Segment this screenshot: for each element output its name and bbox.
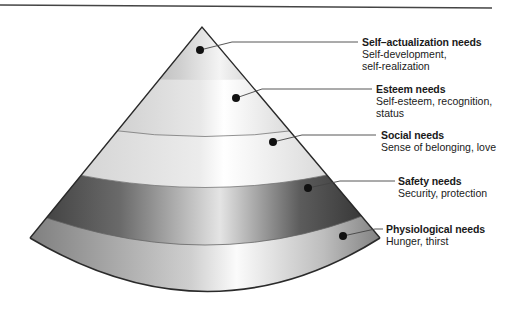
- marker-dot-4: [304, 184, 312, 192]
- level-title: Esteem needs: [376, 83, 492, 95]
- level-desc: Self-esteem, recognition,: [376, 95, 492, 107]
- level-title: Self–actualization needs: [362, 36, 482, 48]
- marker-dot-5: [339, 232, 347, 240]
- band-self-actualization: [0, 0, 400, 80]
- level-title: Safety needs: [398, 175, 487, 187]
- level-desc: status: [376, 107, 492, 119]
- label-physiological: Physiological needs Hunger, thirst: [386, 223, 485, 247]
- label-self-actualization: Self–actualization needs Self-developmen…: [362, 36, 482, 72]
- level-title: Physiological needs: [386, 223, 485, 235]
- marker-dot-3: [269, 138, 277, 146]
- level-desc: Sense of belonging, love: [381, 141, 496, 153]
- level-desc: Hunger, thirst: [386, 235, 485, 247]
- marker-dot-1: [196, 46, 204, 54]
- label-esteem: Esteem needs Self-esteem, recognition, s…: [376, 83, 492, 119]
- label-social: Social needs Sense of belonging, love: [381, 129, 496, 153]
- level-desc: Security, protection: [398, 187, 487, 199]
- level-desc: self-realization: [362, 60, 482, 72]
- level-title: Social needs: [381, 129, 496, 141]
- maslow-cone-diagram: Self–actualization needs Self-developmen…: [0, 0, 522, 319]
- top-rule: [0, 5, 492, 8]
- label-safety: Safety needs Security, protection: [398, 175, 487, 199]
- marker-dot-2: [232, 94, 240, 102]
- level-desc: Self-development,: [362, 48, 482, 60]
